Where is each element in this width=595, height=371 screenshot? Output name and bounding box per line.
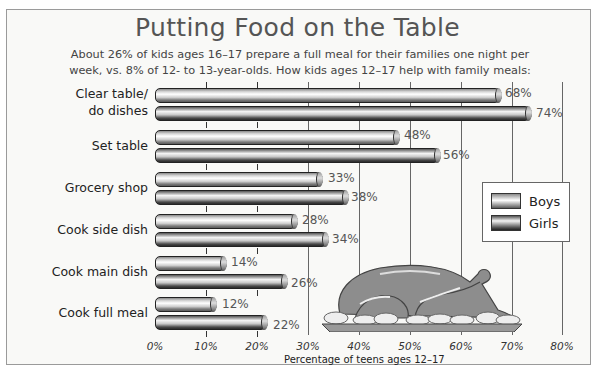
category-label-grocery-shop: Grocery shop bbox=[65, 179, 148, 196]
x-tick-label: 10% bbox=[194, 340, 217, 352]
bar-boys bbox=[155, 88, 502, 103]
tick-20 bbox=[257, 290, 258, 296]
legend-item-boys: Boys bbox=[491, 193, 560, 209]
legend-label-girls: Girls bbox=[529, 216, 558, 231]
category-label-cook-side-dish: Cook side dish bbox=[57, 221, 148, 238]
subtitle-line-1: About 26% of kids ages 16–17 prepare a f… bbox=[40, 47, 560, 63]
turkey-icon bbox=[320, 252, 530, 332]
tick-10 bbox=[206, 122, 207, 128]
tick-20 bbox=[257, 206, 258, 212]
bar-boys bbox=[155, 297, 217, 312]
bar-girls bbox=[155, 232, 329, 247]
x-tick-label: 50% bbox=[398, 340, 421, 352]
x-tick-label: 60% bbox=[449, 340, 472, 352]
x-axis-title: Percentage of teens ages 12–17 bbox=[284, 354, 445, 365]
bar-girls bbox=[155, 106, 532, 121]
tick-10 bbox=[206, 206, 207, 212]
bar-girls bbox=[155, 190, 349, 205]
category-label-set-table: Set table bbox=[92, 137, 148, 154]
x-tick-label: 20% bbox=[245, 340, 268, 352]
bar-boys bbox=[155, 214, 298, 229]
category-label-clear-table: Clear table/ do dishes bbox=[75, 85, 148, 119]
tick-20 bbox=[257, 164, 258, 170]
value-label-girls: 38% bbox=[351, 190, 378, 204]
value-label-boys: 33% bbox=[328, 171, 355, 185]
x-tick-label: 70% bbox=[500, 340, 523, 352]
chart-subtitle: About 26% of kids ages 16–17 prepare a f… bbox=[40, 47, 560, 79]
bar-girls bbox=[155, 274, 288, 289]
value-label-boys: 28% bbox=[302, 213, 329, 227]
legend-label-boys: Boys bbox=[529, 194, 560, 209]
value-label-girls: 22% bbox=[273, 318, 300, 332]
x-tick-label: 30% bbox=[296, 340, 319, 352]
value-label-girls: 74% bbox=[536, 106, 563, 120]
bar-boys bbox=[155, 172, 323, 187]
label-line: Clear table/ bbox=[75, 85, 148, 102]
value-label-girls: 26% bbox=[291, 276, 318, 290]
value-label-girls: 34% bbox=[332, 232, 359, 246]
subtitle-line-2: week, vs. 8% of 12- to 13-year-olds. How… bbox=[40, 63, 560, 79]
x-tick-label: 40% bbox=[347, 340, 370, 352]
value-label-boys: 48% bbox=[404, 128, 431, 142]
tick-10 bbox=[206, 164, 207, 170]
value-label-girls: 56% bbox=[443, 148, 470, 162]
legend-swatch-girls bbox=[491, 215, 521, 231]
bar-girls bbox=[155, 315, 268, 330]
x-tick-label: 0% bbox=[147, 340, 164, 352]
value-label-boys: 12% bbox=[222, 297, 249, 311]
bar-boys bbox=[155, 256, 227, 271]
bar-boys bbox=[155, 130, 400, 145]
tick-20 bbox=[257, 331, 258, 337]
tick-10 bbox=[206, 331, 207, 337]
tick-10 bbox=[206, 290, 207, 296]
category-label-cook-main-dish: Cook main dish bbox=[52, 263, 148, 280]
value-label-boys: 68% bbox=[505, 86, 532, 100]
tick-20 bbox=[257, 122, 258, 128]
legend-item-girls: Girls bbox=[491, 215, 558, 231]
x-tick-label: 80% bbox=[550, 340, 573, 352]
tick-10 bbox=[206, 248, 207, 254]
legend-swatch-boys bbox=[491, 193, 521, 209]
category-label-cook-full-meal: Cook full meal bbox=[59, 304, 148, 321]
label-line: do dishes bbox=[75, 102, 148, 119]
tick-20 bbox=[257, 248, 258, 254]
chart-title: Putting Food on the Table bbox=[0, 13, 595, 42]
legend: Boys Girls bbox=[482, 182, 570, 242]
value-label-boys: 14% bbox=[231, 255, 258, 269]
bar-girls bbox=[155, 148, 441, 163]
